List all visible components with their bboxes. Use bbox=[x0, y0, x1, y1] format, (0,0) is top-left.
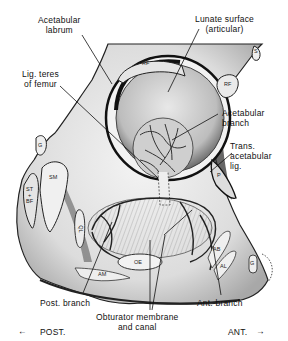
label-acetabular-branch: Acetabular branch bbox=[222, 108, 265, 128]
posterior-arrow-icon: ← bbox=[18, 326, 27, 336]
label-acetabular-labrum: Acetabular labrum bbox=[38, 15, 81, 35]
label-trans-acetabular-lig: Trans. acetabular lig. bbox=[230, 141, 272, 171]
label-anterior: ANT. bbox=[228, 327, 247, 337]
abbr-am: AM bbox=[98, 271, 106, 277]
abbr-oe: OE bbox=[134, 259, 142, 265]
abbr-g: G bbox=[38, 142, 42, 148]
label-lunate-surface: Lunate surface (articular) bbox=[195, 14, 254, 34]
label-ant-branch: Ant. branch bbox=[197, 298, 243, 308]
abbr-p: P bbox=[217, 172, 221, 178]
acetabulum-illustration: Acetabular labrum Lunate surface (articu… bbox=[0, 0, 288, 341]
abbr-ab: AB bbox=[213, 246, 220, 252]
abbr-g-right: G bbox=[250, 260, 254, 266]
abbr-al: AL bbox=[220, 263, 227, 269]
label-lig-teres: Lig. teres of femur bbox=[22, 69, 59, 89]
label-obturator-membrane: Obturator membrane and canal bbox=[96, 312, 179, 332]
abbr-ql: QL bbox=[78, 225, 84, 232]
abbr-sm: SM bbox=[49, 174, 57, 180]
abbr-rf-upper: RF bbox=[142, 60, 149, 66]
abbr-rf-right: RF bbox=[224, 81, 231, 87]
abbr-s: S bbox=[254, 48, 258, 54]
anterior-arrow-icon: → bbox=[256, 326, 265, 336]
abbr-st-bf: ST + BF bbox=[26, 186, 33, 204]
label-posterior: POST. bbox=[40, 327, 66, 337]
acetabular-fossa bbox=[133, 118, 193, 178]
label-post-branch: Post. branch bbox=[40, 298, 90, 308]
